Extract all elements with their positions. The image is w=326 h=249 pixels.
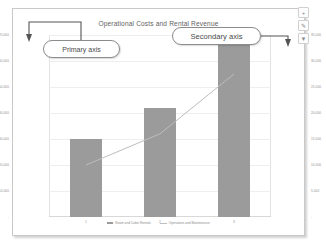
secondary-axis-callout[interactable]: Secondary axis bbox=[172, 27, 261, 45]
chart-tool-buttons[interactable]: +✎▼ bbox=[297, 7, 310, 44]
primary-axis-tick: $50,000 bbox=[0, 85, 9, 89]
chart-styles-button[interactable]: ✎ bbox=[298, 20, 309, 31]
bar[interactable] bbox=[70, 139, 101, 217]
chart-styles-icon: ✎ bbox=[301, 23, 306, 29]
secondary-axis-tick: 35,000 bbox=[311, 33, 326, 37]
chart-legend[interactable]: Room and Cabin Rentals Operations and Ma… bbox=[13, 221, 304, 225]
secondary-axis-tick: 15,000 bbox=[311, 137, 326, 141]
primary-axis-callout[interactable]: Primary axis bbox=[43, 40, 120, 58]
primary-axis-line bbox=[49, 35, 50, 217]
secondary-axis-callout-label: Secondary axis bbox=[191, 32, 243, 41]
secondary-axis-tick: 10,000 bbox=[311, 163, 326, 167]
bar[interactable] bbox=[218, 43, 249, 217]
secondary-axis-tick: 25,000 bbox=[311, 85, 326, 89]
primary-axis-tick: $20,000 bbox=[0, 163, 9, 167]
secondary-axis-tick: - bbox=[311, 215, 326, 219]
primary-axis-tick: $60,000 bbox=[0, 59, 9, 63]
primary-axis-tick: - bbox=[0, 215, 9, 219]
legend-swatch-bar-icon bbox=[107, 222, 113, 225]
bar[interactable] bbox=[144, 108, 175, 217]
legend-item-line[interactable]: Operations and Maintenance bbox=[160, 221, 210, 225]
chart-filters-icon: ▼ bbox=[301, 36, 307, 42]
primary-axis-tick: $10,000 bbox=[0, 189, 9, 193]
secondary-axis-tick: 20,000 bbox=[311, 111, 326, 115]
plot-area[interactable]: $70,000$60,000$50,000$40,000$30,000$20,0… bbox=[49, 35, 271, 217]
legend-swatch-line-icon bbox=[160, 223, 167, 224]
chart-elements-button[interactable]: + bbox=[298, 7, 309, 18]
chart-title: Operational Costs and Rental Revenue bbox=[13, 20, 304, 27]
legend-label-line: Operations and Maintenance bbox=[169, 221, 210, 225]
secondary-axis-line bbox=[270, 35, 271, 217]
chart-elements-icon: + bbox=[302, 10, 306, 16]
legend-item-bar[interactable]: Room and Cabin Rentals bbox=[107, 221, 151, 225]
secondary-axis-tick: 30,000 bbox=[311, 59, 326, 63]
primary-axis-tick: $70,000 bbox=[0, 33, 9, 37]
chart-filters-button[interactable]: ▼ bbox=[298, 33, 309, 44]
primary-axis-tick: $30,000 bbox=[0, 137, 9, 141]
secondary-axis-tick: 5,000 bbox=[311, 189, 326, 193]
primary-axis-tick: $40,000 bbox=[0, 111, 9, 115]
legend-label-bar: Room and Cabin Rentals bbox=[115, 221, 151, 225]
primary-axis-callout-label: Primary axis bbox=[62, 46, 101, 53]
